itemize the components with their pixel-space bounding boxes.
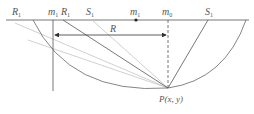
m1-center-dot	[134, 18, 137, 21]
label-S1-mid: S1	[86, 6, 94, 18]
label-R1-left: R1	[11, 6, 21, 18]
line-S1-right-to-P	[168, 20, 208, 88]
label-m0: m0	[162, 6, 172, 18]
label-point-P: P(x, y)	[158, 94, 183, 104]
label-m1-center: m1	[130, 6, 140, 18]
light-line-left	[28, 40, 168, 88]
light-line-far-left	[15, 23, 168, 88]
label-R1-mid: R1	[60, 6, 70, 18]
label-S1-right: S1	[205, 6, 213, 18]
light-line-S1	[92, 20, 168, 88]
label-radius: R	[109, 23, 116, 34]
slip-circle-diagram: R1 m1 R1 S1 m1 m0 S1 R P(x, y)	[0, 0, 254, 114]
label-m1-left: m1	[48, 6, 58, 18]
